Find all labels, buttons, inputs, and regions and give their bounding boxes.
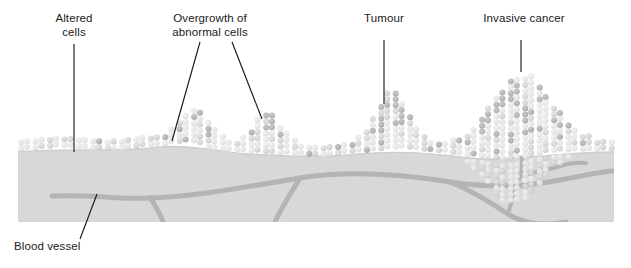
label-blood-vessel: Blood vessel: [14, 240, 124, 254]
label-invasive-cancer: Invasive cancer: [448, 12, 600, 26]
label-tumour: Tumour: [332, 12, 436, 26]
leader-overgrowth-right: [232, 42, 262, 119]
label-overgrowth-of-abnormal-cells: Overgrowth of abnormal cells: [140, 12, 280, 39]
diagram-artwork: [0, 0, 631, 268]
label-altered-cells: Altered cells: [28, 12, 120, 39]
cancer-progression-diagram: Altered cells Overgrowth of abnormal cel…: [0, 0, 631, 268]
